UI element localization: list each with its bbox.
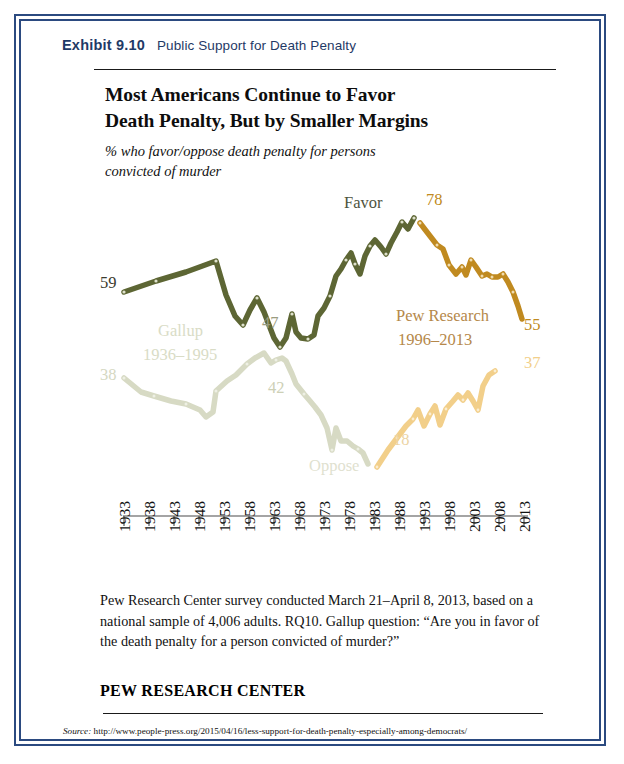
headline-line-1: Most Americans Continue to Favor (105, 82, 535, 108)
x-tick-label: 1963 (266, 501, 283, 532)
series-oppose-pew (377, 371, 495, 467)
line-chart: Favor Oppose Gallup 1936–1995 Pew Resear… (96, 188, 546, 578)
exhibit-number: Exhibit 9.10 (62, 37, 145, 53)
headline-line-2: Death Penalty, But by Smaller Margins (105, 108, 535, 134)
annotation-pew-years: 1996–2013 (398, 330, 472, 349)
x-tick-label: 1983 (366, 501, 383, 532)
annotation-gallup-name: Gallup (158, 321, 203, 340)
annotation-gallup-years: 1936–1995 (143, 345, 217, 364)
exhibit-page: Exhibit 9.10Public Support for Death Pen… (0, 0, 624, 764)
source-url: http://www.people-press.org/2015/04/16/l… (94, 726, 468, 736)
x-tick-label: 1978 (341, 501, 358, 532)
x-axis-tick-labels: 1933 1938 1943 1948 1953 1958 1963 1968 … (116, 501, 533, 532)
x-tick-label: 1998 (441, 501, 458, 532)
series-favor-pew-markers (419, 222, 515, 294)
page-subtitle: % who favor/oppose death penalty for per… (105, 141, 465, 181)
x-tick-label: 2008 (491, 501, 508, 532)
subhead-line-1: % who favor/oppose death penalty for per… (105, 141, 465, 161)
x-tick-label: 1938 (141, 501, 158, 532)
x-tick-label: 1968 (291, 501, 308, 532)
subhead-line-2: convicted of murder (105, 161, 465, 181)
datalabel-favor-47: 47 (262, 313, 279, 332)
x-tick-label: 1948 (191, 501, 208, 532)
datalabel-favor-peak: 78 (426, 190, 443, 209)
datalabel-oppose-start: 38 (100, 365, 117, 384)
source-label: Source: (63, 726, 91, 736)
x-tick-label: 1993 (416, 501, 433, 532)
x-tick-label: 1933 (116, 501, 133, 532)
x-tick-label: 1958 (241, 501, 258, 532)
brand-name: PEW RESEARCH CENTER (100, 682, 305, 700)
exhibit-title: Public Support for Death Penalty (157, 38, 356, 53)
header-divider (94, 69, 556, 70)
annotation-oppose: Oppose (309, 456, 359, 475)
x-tick-label: 1973 (316, 501, 333, 532)
x-tick-label: 2003 (466, 501, 483, 532)
datalabel-oppose-18: 18 (393, 430, 410, 449)
x-tick-label: 1988 (391, 501, 408, 532)
footnote-text: Pew Research Center survey conducted Mar… (100, 590, 540, 652)
datalabel-oppose-end: 37 (524, 353, 541, 372)
datalabel-favor-end: 55 (524, 315, 541, 334)
page-title: Most Americans Continue to Favor Death P… (105, 82, 535, 134)
series-favor-pew (420, 223, 522, 319)
series-oppose-gallup (124, 353, 368, 464)
datalabel-oppose-42: 42 (268, 378, 285, 397)
exhibit-header: Exhibit 9.10Public Support for Death Pen… (62, 36, 562, 54)
annotation-favor: Favor (344, 193, 383, 212)
datalabel-favor-start: 59 (100, 273, 117, 292)
annotation-pew-name: Pew Research (396, 306, 490, 325)
x-tick-label: 1953 (216, 501, 233, 532)
footer-divider (103, 713, 543, 714)
x-tick-label: 1943 (166, 501, 183, 532)
x-tick-label: 2013 (516, 501, 533, 532)
source-line: Source: http://www.people-press.org/2015… (63, 726, 603, 736)
